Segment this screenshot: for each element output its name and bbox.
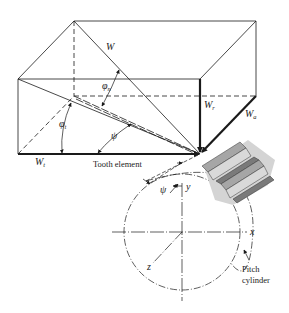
wt-label: Wt xyxy=(35,156,45,168)
psi-box-label: ψ xyxy=(111,130,118,141)
tooth-element-callout: Tooth element xyxy=(93,159,142,169)
phi-n-label: φn xyxy=(102,80,111,92)
psi-tooth-label: ψ xyxy=(160,184,167,195)
wa-label: Wa xyxy=(245,108,257,120)
psi-tooth-arc xyxy=(170,184,178,193)
w-label: W xyxy=(106,41,116,52)
x-axis-label: x xyxy=(249,226,255,237)
pitch-cylinder-leader xyxy=(244,250,249,260)
force-box xyxy=(18,21,256,155)
z-axis-label: z xyxy=(146,261,151,272)
gear-tooth-element xyxy=(202,140,275,205)
pitch-cylinder-callout-line1: Pitch xyxy=(242,264,260,274)
y-axis-label: y xyxy=(185,181,191,192)
pitch-cylinder-callout-line2: cylinder xyxy=(242,275,270,285)
wr-label: Wr xyxy=(204,99,215,111)
helical-gear-force-diagram: W Wr Wa Wt φn φt ψ y x z ψ Tooth e xyxy=(0,0,289,313)
